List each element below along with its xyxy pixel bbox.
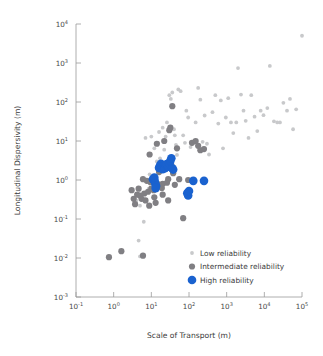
data-point <box>176 176 182 182</box>
data-point <box>146 203 152 209</box>
legend-marker <box>188 276 197 285</box>
y-tick-label: 100 <box>56 175 68 185</box>
data-point <box>151 184 160 193</box>
x-tick-label: 10-1 <box>69 301 83 311</box>
data-point <box>203 114 207 118</box>
data-point <box>224 116 228 120</box>
data-point <box>142 197 148 203</box>
data-point <box>229 120 233 124</box>
legend-marker <box>189 263 195 269</box>
data-point <box>129 187 135 193</box>
data-point <box>195 143 201 149</box>
data-point <box>138 204 142 208</box>
data-point <box>165 176 171 182</box>
data-point <box>198 98 202 102</box>
data-point <box>236 66 240 70</box>
y-tick-label: 10-1 <box>54 214 68 224</box>
x-tick-label: 100 <box>107 301 119 311</box>
data-point <box>167 125 173 131</box>
data-point <box>140 253 146 259</box>
data-point <box>183 141 187 145</box>
data-point <box>169 97 173 101</box>
data-point <box>170 91 174 95</box>
data-point <box>179 89 183 93</box>
x-tick-label: 104 <box>258 301 270 311</box>
data-point <box>189 177 198 186</box>
data-point <box>205 142 209 146</box>
data-point <box>137 239 141 243</box>
legend-marker <box>190 251 194 255</box>
data-point <box>253 115 257 119</box>
data-point <box>265 106 269 110</box>
data-point <box>167 93 171 97</box>
data-point <box>147 151 153 157</box>
chart-legend: Low reliabilityIntermediate reliabilityH… <box>188 249 285 285</box>
data-point <box>175 153 179 157</box>
data-point <box>169 103 175 109</box>
data-point <box>216 122 220 126</box>
legend-label: Intermediate reliability <box>200 262 285 271</box>
data-point <box>219 98 223 102</box>
data-point <box>186 116 190 120</box>
data-point <box>152 146 156 150</box>
data-point <box>157 130 161 134</box>
dispersivity-scatter-chart: 10-310-210-110010110210310410-1100101102… <box>0 0 323 356</box>
legend-item[interactable]: Intermediate reliability <box>189 262 285 271</box>
y-tick-label: 103 <box>56 58 68 68</box>
data-point <box>194 120 198 124</box>
data-point <box>185 187 194 196</box>
data-point <box>153 200 159 206</box>
y-tick-label: 102 <box>56 97 68 107</box>
data-point <box>239 93 243 97</box>
data-point <box>164 135 168 139</box>
data-point <box>201 146 207 152</box>
data-point <box>161 138 167 144</box>
data-point <box>291 127 295 131</box>
data-point <box>150 173 159 182</box>
x-axis-title: Scale of Transport (m) <box>147 331 231 340</box>
data-point <box>184 109 188 113</box>
data-point <box>213 93 217 97</box>
data-point <box>244 119 248 123</box>
y-tick-label: 104 <box>56 19 68 29</box>
data-point <box>285 109 289 113</box>
data-point <box>272 119 276 123</box>
data-point <box>154 141 160 147</box>
data-point <box>221 146 225 150</box>
data-point <box>180 215 186 221</box>
data-point <box>226 96 230 100</box>
data-point <box>288 97 292 101</box>
legend-label: High reliability <box>200 276 254 285</box>
y-tick-label: 10-3 <box>54 292 68 302</box>
legend-label: Low reliability <box>200 249 252 258</box>
data-point <box>278 120 282 124</box>
data-point <box>262 113 266 117</box>
plot-canvas: 10-310-210-110010110210310410-1100101102… <box>0 0 323 356</box>
data-point <box>181 133 185 137</box>
data-point <box>211 110 215 114</box>
data-point <box>149 135 153 139</box>
data-point <box>173 133 177 137</box>
legend-item[interactable]: Low reliability <box>190 249 252 258</box>
data-point <box>165 120 169 124</box>
data-point <box>242 109 246 113</box>
x-tick-label: 103 <box>220 301 232 311</box>
data-point <box>142 220 146 224</box>
data-point <box>231 131 235 135</box>
x-tick-label: 102 <box>183 301 195 311</box>
data-point <box>200 177 209 186</box>
data-point <box>165 197 171 203</box>
data-point <box>161 126 165 130</box>
data-point <box>132 201 138 207</box>
data-point <box>268 64 272 68</box>
legend-item[interactable]: High reliability <box>188 276 254 285</box>
data-point <box>201 140 205 144</box>
data-point <box>255 129 259 133</box>
data-point <box>136 186 142 192</box>
data-point <box>169 165 178 174</box>
data-point <box>160 192 166 198</box>
data-point <box>174 145 180 151</box>
y-tick-label: 101 <box>56 136 68 146</box>
data-point <box>162 148 166 152</box>
data-point <box>106 254 112 260</box>
